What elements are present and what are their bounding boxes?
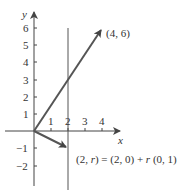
x-tick-label: 3 (82, 115, 88, 127)
x-tick-label: 2 (65, 115, 71, 127)
y-axis-label: y (21, 8, 27, 20)
y-tick-label: 4 (23, 56, 29, 68)
y-tick-label: 1 (23, 108, 29, 120)
x-tick-label: 1 (48, 115, 54, 127)
vector-label-2-r: (2, r) = (2, 0) + r (0, 1) (76, 153, 177, 166)
x-tick-label: 4 (99, 115, 105, 127)
y-tick-label: −2 (16, 160, 28, 172)
diagram-canvas: y x 1 2 3 4 6 5 4 3 2 1 −1 −2 (4, 6) (2,… (0, 0, 189, 192)
y-tick-label: 3 (23, 74, 29, 86)
y-tick-label: −1 (16, 142, 28, 154)
y-tick-label: 6 (23, 22, 29, 34)
y-tick-label: 2 (23, 91, 29, 103)
x-axis-label: x (117, 134, 123, 146)
y-tick-label: 5 (23, 39, 29, 51)
vector-to-2-r (34, 131, 66, 147)
vector-label-4-6: (4, 6) (106, 27, 130, 40)
